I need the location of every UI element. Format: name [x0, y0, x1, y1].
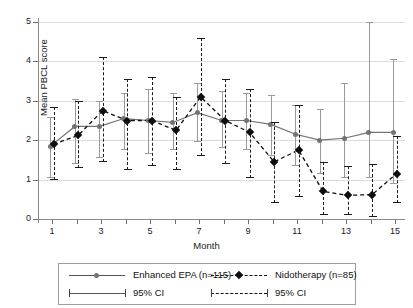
- data-point-epa-month-11: [293, 132, 298, 137]
- data-point-epa-month-15: [391, 130, 396, 135]
- series-lines: [0, 0, 413, 308]
- data-point-epa-month-3: [97, 124, 102, 129]
- data-point-epa-month-7: [195, 110, 200, 115]
- data-point-epa-month-13: [342, 136, 347, 141]
- chart-figure: Mean PBCL score Month Enhanced EPA (n=11…: [0, 0, 413, 308]
- data-point-epa-month-9: [244, 118, 249, 123]
